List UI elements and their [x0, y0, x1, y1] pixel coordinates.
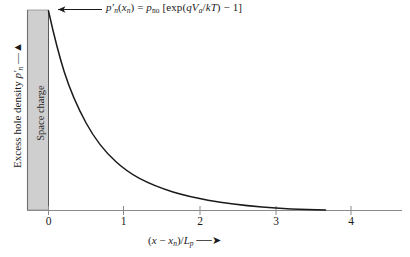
equation-annotation: p′n(xn) = pno [exp(qVa/kT) − 1] — [106, 2, 242, 15]
eq-exp: exp — [166, 1, 182, 13]
y-axis-title-wrapper: Excess hole density p′n —▲ — [7, 18, 25, 193]
eq-close-paren: ) — [131, 1, 135, 13]
y-axis-symbol-prime: ′ — [11, 70, 23, 72]
annotation-leader-arrow — [58, 6, 102, 13]
y-axis-title: Excess hole density p′n —▲ — [11, 42, 25, 168]
x-title-minus: − — [159, 234, 165, 246]
x-tick-label-0: 0 — [39, 216, 59, 228]
space-charge-label-wrapper: Space charge — [30, 66, 46, 160]
y-axis-symbol-sub: n — [16, 67, 25, 71]
x-tick-label-4: 4 — [341, 216, 361, 228]
eq-V: V — [192, 1, 199, 13]
eq-paren-close: ) — [217, 1, 221, 13]
y-axis-title-text: Excess hole density — [11, 81, 23, 168]
x-title-x: x — [152, 234, 157, 246]
x-title-sub-p: p — [190, 239, 194, 248]
eq-equals: = — [137, 1, 143, 13]
eq-sub-no: no — [152, 6, 160, 15]
y-axis-arrow-icon: —▲ — [11, 42, 23, 64]
eq-minus: − — [223, 1, 229, 13]
space-charge-label: Space charge — [35, 85, 46, 140]
y-axis-symbol-p: p — [11, 73, 23, 79]
x-axis-arrow-icon: ──➤ — [196, 234, 221, 246]
eq-bracket-close: ] — [238, 1, 242, 13]
figure-container: p′n(xn) = pno [exp(qVa/kT) − 1] Excess h… — [0, 0, 410, 257]
x-tick-label-3: 3 — [266, 216, 286, 228]
x-tick-label-2: 2 — [190, 216, 210, 228]
excess-hole-density-curve — [49, 11, 326, 210]
x-tick-label-1: 1 — [114, 216, 134, 228]
x-axis-title: (x − xn)/Lp ──➤ — [148, 235, 221, 248]
x-title-close: )/ — [177, 234, 184, 246]
